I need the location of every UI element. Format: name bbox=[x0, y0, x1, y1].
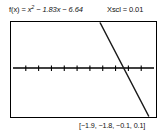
plot-canvas bbox=[11, 22, 156, 117]
window-range-label: [−1.9, −1.8, −0.1, 0.1] bbox=[79, 121, 145, 130]
graphing-calculator-screenshot: f(x) = x2 − 1.83x − 6.64 Xscl = 0.01 [−1… bbox=[0, 0, 165, 136]
xscl-label: Xscl = 0.01 bbox=[107, 5, 143, 14]
function-label-fx: f(x) bbox=[9, 5, 19, 14]
plot-frame bbox=[10, 21, 157, 118]
function-label-rest: − 1.83x − 6.64 bbox=[34, 5, 83, 14]
function-label: f(x) = x2 − 1.83x − 6.64 bbox=[9, 5, 83, 14]
function-label-equals: = bbox=[19, 5, 27, 14]
